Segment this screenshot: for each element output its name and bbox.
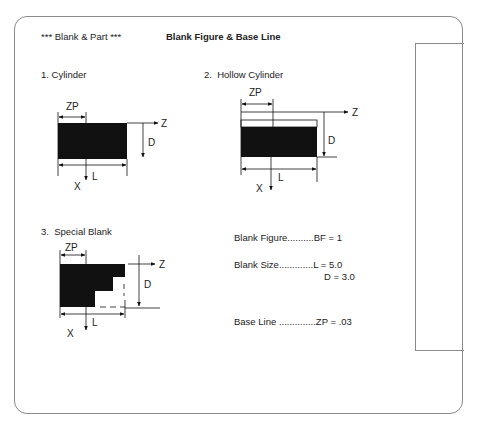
special-x-label: X <box>67 328 74 339</box>
hollow-l-label: L <box>278 172 284 183</box>
hollow-zp-label: ZP <box>249 87 262 98</box>
special-l-label: L <box>92 317 98 328</box>
hollow-z-label: Z <box>352 107 358 118</box>
special-zp-label: ZP <box>65 242 78 253</box>
cylinder-d-label: D <box>148 137 155 148</box>
hollow-d-label: D <box>328 135 335 146</box>
cylinder-figure <box>58 112 158 180</box>
cylinder-l-label: L <box>92 171 98 182</box>
cylinder-z-label: Z <box>161 118 167 129</box>
hollow-x-label: X <box>256 183 263 194</box>
special-d-label: D <box>144 279 151 290</box>
cylinder-x-label: X <box>74 181 81 192</box>
special-blank-figure <box>60 250 160 330</box>
cylinder-zp-label: ZP <box>66 101 79 112</box>
figures-drawing: ZP Z D L X ZP Z D L X <box>0 0 477 431</box>
special-z-label: Z <box>159 259 165 270</box>
